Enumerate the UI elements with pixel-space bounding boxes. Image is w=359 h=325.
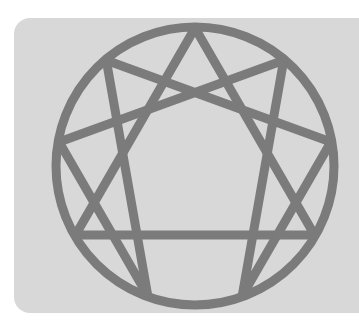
- enneagram-hexad: [59, 60, 331, 295]
- enneagram-circle: [56, 27, 334, 305]
- enneagram-icon: [0, 0, 359, 325]
